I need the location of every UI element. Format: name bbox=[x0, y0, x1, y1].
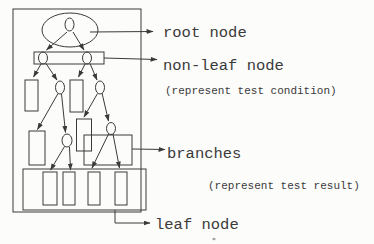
leaf-rect-2 bbox=[63, 172, 75, 205]
edge-arrow bbox=[102, 93, 109, 121]
non-leaf-node-right bbox=[83, 52, 92, 64]
edge-arrow bbox=[34, 64, 42, 77]
edge-arrow bbox=[92, 134, 109, 168]
non-leaf-node-left bbox=[39, 52, 48, 64]
leaf-rect-1 bbox=[43, 172, 57, 205]
edge-arrow bbox=[38, 94, 59, 130]
root-node-label: root node bbox=[163, 24, 247, 42]
scan-artifact-dot bbox=[212, 238, 215, 240]
non-leaf-highlight-box bbox=[34, 52, 104, 64]
edge-arrow bbox=[79, 64, 86, 77]
edge-arrow bbox=[73, 32, 84, 50]
edge-arrow bbox=[70, 147, 71, 170]
non-leaf-node-label: non-leaf node bbox=[163, 57, 284, 75]
edge-arrow bbox=[51, 147, 65, 171]
leaf-node-label: leaf node bbox=[155, 216, 239, 234]
root-node bbox=[65, 18, 74, 31]
node-rect-3 bbox=[29, 131, 45, 165]
edge-arrow bbox=[113, 134, 120, 168]
test-node-a bbox=[56, 81, 65, 94]
test-node-d bbox=[107, 123, 116, 135]
leaf-group-box bbox=[23, 169, 146, 210]
edge-arrow bbox=[47, 32, 68, 50]
non-leaf-note-label: (represent test condition) bbox=[165, 85, 337, 97]
edge-arrow bbox=[62, 94, 66, 133]
callout-non-leaf-line bbox=[104, 58, 157, 60]
diagram-canvas: root node non-leaf node (represent test … bbox=[0, 0, 374, 244]
branches-label: branches bbox=[167, 145, 241, 163]
edge-arrow bbox=[84, 94, 98, 118]
edge-arrow bbox=[46, 64, 57, 81]
node-rect-2 bbox=[70, 80, 83, 112]
leaf-rect-3 bbox=[88, 172, 100, 205]
callout-root-line bbox=[90, 32, 153, 33]
branches-note-label: (represent test result) bbox=[208, 180, 360, 192]
callout-branches-line bbox=[132, 149, 165, 150]
edge-arrow bbox=[90, 64, 97, 81]
decision-tree-diagram: root node non-leaf node (represent test … bbox=[0, 0, 374, 244]
test-node-b bbox=[96, 81, 105, 94]
node-rect-1 bbox=[25, 80, 38, 111]
leaf-rect-4 bbox=[115, 172, 127, 205]
test-node-c bbox=[62, 134, 72, 147]
